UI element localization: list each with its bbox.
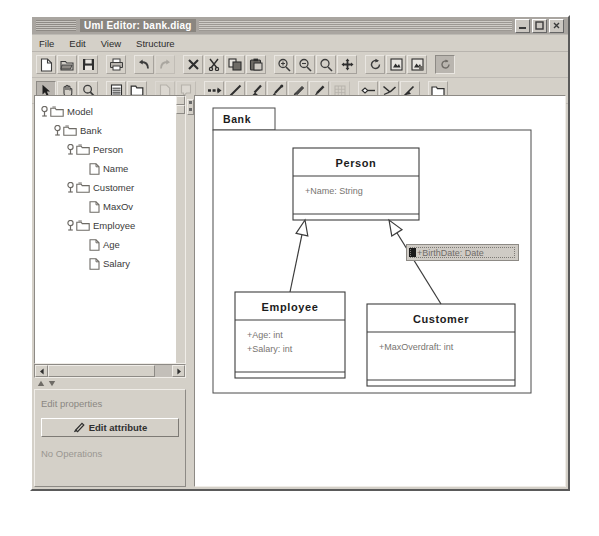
tree-node-label: Salary [103,258,130,269]
tree-node-label: Person [93,144,123,155]
tree-node-label: MaxOv [103,201,133,212]
edit-attribute-button[interactable]: Edit attribute [41,418,179,437]
tree-expand-handle-icon[interactable] [52,125,63,136]
class-name-label: Person [336,157,377,169]
properties-title: Edit properties [41,398,179,409]
scroll-left-arrow[interactable] [35,365,48,377]
tree-node-label: Employee [93,220,135,231]
hscroll-track[interactable] [48,365,172,377]
title-bar-grip [36,20,76,31]
operations-note: No Operations [41,448,179,459]
menu-structure[interactable]: Structure [135,38,176,49]
class-attribute: +Salary: int [247,344,293,354]
class-attribute: +Age: int [247,330,283,340]
tree-folder-icon [50,106,64,117]
new-document-icon[interactable] [36,55,56,74]
tree-vertical-scrollbar[interactable] [176,96,185,363]
menu-view[interactable]: View [100,38,122,49]
menu-edit[interactable]: Edit [68,38,86,49]
tree-folder-icon [76,144,90,155]
scroll-up-arrow[interactable] [176,96,185,105]
scroll-right-arrow[interactable] [172,365,185,377]
tree-leaf-icon [89,201,100,213]
inline-editor-focus-ring [410,247,515,258]
tree-node-model[interactable]: Model [39,102,185,121]
title-bar-fill [199,20,512,31]
tree-node-age[interactable]: Age [39,235,185,254]
diagram-canvas[interactable]: BankPerson+Name: StringEmployee+Age: int… [195,96,565,486]
toolbar-group-print [106,55,127,74]
tree-expand-handle-icon[interactable] [65,220,76,231]
tree-no-handle [78,239,89,250]
divider-down-arrow-icon [48,380,56,387]
cut-scissors-icon[interactable] [204,55,224,74]
tree-node-label: Name [103,163,128,174]
rotate-selected-icon[interactable] [435,55,455,74]
tree-expand-handle-icon[interactable] [39,106,50,117]
zoom-out-icon[interactable] [295,55,315,74]
class-box-person[interactable]: Person+Name: String [293,148,419,220]
toolbar-primary [32,52,568,78]
edit-attribute-label: Edit attribute [89,422,148,433]
undo-icon[interactable] [134,55,154,74]
divider-up-arrow-icon [37,380,45,387]
tree-folder-icon [76,182,90,193]
print-icon[interactable] [106,55,126,74]
tree-node-bank[interactable]: Bank [39,121,185,140]
scroll-down-arrow[interactable] [176,105,185,114]
tree-node-customer[interactable]: Customer [39,178,185,197]
save-disk-icon[interactable] [78,55,98,74]
tree-horizontal-scrollbar[interactable] [34,364,186,378]
tree-node-label: Customer [93,182,134,193]
title-bar[interactable]: Uml Editor: bank.diag [32,17,568,35]
toolbar-group-export [365,55,428,74]
class-box-employee[interactable]: Employee+Age: int+Salary: int [235,292,345,378]
tree-expand-handle-icon[interactable] [65,182,76,193]
move-icon[interactable] [337,55,357,74]
splitter-grip[interactable] [187,99,194,115]
toolbar-group-history [134,55,176,74]
export-image-icon[interactable] [386,55,406,74]
class-name-label: Customer [413,313,469,325]
left-pane: ModelBankPersonNameCustomerMaxOvEmployee… [34,95,186,487]
open-folder-icon[interactable] [57,55,77,74]
tree-no-handle [78,258,89,269]
window-title: Uml Editor: bank.diag [80,19,196,32]
tree-node-label: Bank [80,125,102,136]
copy-icon[interactable] [225,55,245,74]
pane-divider[interactable] [34,378,186,389]
hscroll-thumb[interactable] [48,365,155,377]
package-name-label: Bank [223,113,251,125]
zoom-in-icon[interactable] [274,55,294,74]
edit-pencil-icon [73,422,85,433]
close-button[interactable] [549,19,564,33]
pane-splitter[interactable] [186,95,194,487]
redo-icon[interactable] [155,55,175,74]
model-tree-panel[interactable]: ModelBankPersonNameCustomerMaxOvEmployee… [34,95,186,364]
tree-leaf-icon [89,258,100,270]
tree-node-name[interactable]: Name [39,159,185,178]
zoom-fit-icon[interactable] [316,55,336,74]
inline-attribute-editor[interactable]: +BirthDate: Date [406,244,519,261]
tree-node-salary[interactable]: Salary [39,254,185,273]
uml-editor-window: Uml Editor: bank.diag File Edit View Str… [30,15,570,491]
toolbar-group-clipboard [183,55,267,74]
delete-icon[interactable] [183,55,203,74]
menu-file[interactable]: File [38,38,55,49]
properties-panel: Edit properties Edit attribute No Operat… [34,389,186,487]
refresh-icon[interactable] [365,55,385,74]
tree-expand-handle-icon[interactable] [65,144,76,155]
tree-node-person[interactable]: Person [39,140,185,159]
tree-node-employee[interactable]: Employee [39,216,185,235]
class-attribute: +Name: String [305,186,363,196]
diagram-canvas-panel[interactable]: BankPerson+Name: StringEmployee+Age: int… [194,95,566,487]
minimize-button[interactable] [515,19,530,33]
paste-icon[interactable] [246,55,266,74]
class-box-customer[interactable]: Customer+MaxOverdraft: int [367,304,515,386]
tree-node-maxov[interactable]: MaxOv [39,197,185,216]
import-image-icon[interactable] [407,55,427,74]
tree-leaf-icon [89,239,100,251]
menu-bar: File Edit View Structure [32,35,568,52]
maximize-button[interactable] [532,19,547,33]
window-buttons [515,19,564,33]
